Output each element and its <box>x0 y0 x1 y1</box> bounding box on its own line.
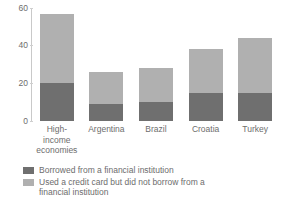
bar-segment-credit-card <box>40 14 74 84</box>
bar-segment-borrowed <box>139 102 173 121</box>
bar-group <box>139 8 173 121</box>
legend-swatch-icon <box>23 167 34 174</box>
chart-legend: Borrowed from a financial institution Us… <box>23 165 273 199</box>
bar-segment-credit-card <box>89 72 123 104</box>
stacked-bar-chart: 0204060 High-incomeeconomiesArgentinaBra… <box>0 0 284 207</box>
y-axis-tick-label: 0 <box>2 117 28 126</box>
label-line: economies <box>36 145 77 155</box>
bar-group <box>40 8 74 121</box>
bar-segment-borrowed <box>189 93 223 121</box>
y-axis-tick-label: 20 <box>2 79 28 88</box>
bar-group <box>238 8 272 121</box>
bar-segment-borrowed <box>238 93 272 121</box>
legend-item: Used a credit card but did not borrow fr… <box>23 177 273 198</box>
bar-stack <box>89 72 123 121</box>
plot-area: 0204060 <box>32 8 280 121</box>
x-axis-category-labels: High-incomeeconomiesArgentinaBrazilCroat… <box>32 124 280 156</box>
bar-segment-credit-card <box>189 49 223 92</box>
x-axis-category-label: Argentina <box>79 124 133 135</box>
bar-stack <box>238 38 272 121</box>
label-line: Turkey <box>242 124 268 134</box>
x-axis-category-label: Brazil <box>129 124 183 135</box>
bar-group <box>189 8 223 121</box>
legend-item: Borrowed from a financial institution <box>23 165 273 176</box>
legend-swatch-icon <box>23 179 34 186</box>
label-line: High- <box>47 124 67 134</box>
bar-group <box>89 8 123 121</box>
y-axis-tick-label: 60 <box>2 4 28 13</box>
legend-item-label: Used a credit card but did not borrow fr… <box>39 177 234 198</box>
x-axis-category-label: Turkey <box>228 124 282 135</box>
x-axis-category-label: High-incomeeconomies <box>30 124 84 156</box>
label-line: Croatia <box>192 124 219 134</box>
bar-stack <box>189 49 223 121</box>
bar-segment-borrowed <box>40 83 74 121</box>
y-axis-tick-label: 40 <box>2 41 28 50</box>
bar-segment-credit-card <box>238 38 272 93</box>
bar-segment-credit-card <box>139 68 173 102</box>
legend-item-label: Borrowed from a financial institution <box>39 165 174 176</box>
bar-stack <box>40 14 74 121</box>
bar-series-container <box>32 8 280 121</box>
label-line: income <box>43 135 70 145</box>
label-line: Brazil <box>145 124 166 134</box>
x-axis-category-label: Croatia <box>179 124 233 135</box>
label-line: Argentina <box>88 124 124 134</box>
bar-stack <box>139 68 173 121</box>
bar-segment-borrowed <box>89 104 123 121</box>
